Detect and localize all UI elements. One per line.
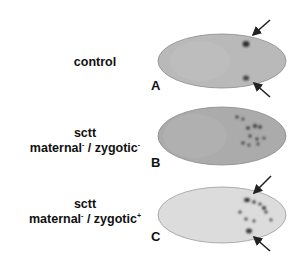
embryo-b bbox=[158, 107, 286, 165]
embryo-a bbox=[158, 20, 286, 97]
arrow-icon bbox=[254, 83, 270, 97]
embryo-c bbox=[158, 176, 286, 251]
arrow-icon bbox=[253, 20, 270, 35]
arrow-icon bbox=[254, 176, 271, 193]
arrow-icon bbox=[254, 237, 270, 251]
embryo-images bbox=[0, 0, 304, 265]
